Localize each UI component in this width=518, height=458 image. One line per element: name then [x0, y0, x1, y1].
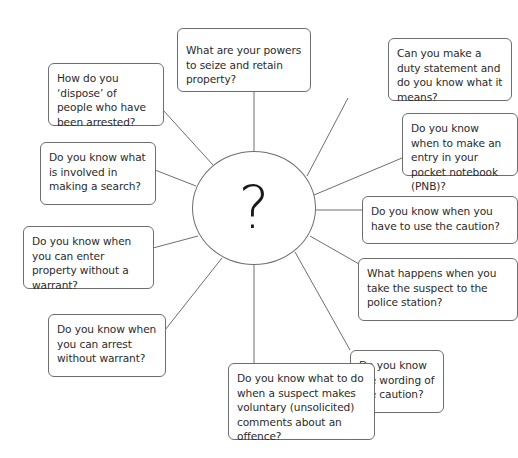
node-text: Do you know what is involved in making a…: [49, 151, 146, 192]
node-text: Do you know when you have to use the cau…: [371, 205, 500, 232]
node-dispose: How do you ‘dispose’ of people who have …: [48, 63, 164, 126]
node-text: Can you make a duty statement and do you…: [397, 47, 502, 103]
node-caution-use: Do you know when you have to use the cau…: [362, 196, 518, 244]
connector-arrest: [165, 258, 222, 330]
node-text: Do you know when you can arrest without …: [57, 323, 156, 364]
connector-pnb: [314, 158, 402, 195]
node-text: How do you ‘dispose’ of people who have …: [57, 72, 146, 128]
connector-search: [155, 170, 196, 186]
connector-duty: [307, 98, 348, 176]
node-enter-property: Do you know when you can enter property …: [23, 226, 154, 289]
connector-dispose: [163, 110, 213, 165]
center-hub: ?: [192, 151, 316, 265]
node-text: Do you know what to do when a suspect ma…: [237, 372, 364, 442]
node-seize: What are your powers to seize and retain…: [177, 28, 311, 92]
connector-caution-wording: [295, 252, 350, 350]
node-voluntary-comments: Do you know what to do when a suspect ma…: [228, 363, 375, 440]
node-police-station: What happens when you take the suspect t…: [358, 258, 518, 321]
node-pnb: Do you know when to make an entry in you…: [402, 113, 518, 176]
node-text: Do you know when you can enter property …: [32, 235, 131, 291]
node-arrest: Do you know when you can arrest without …: [48, 314, 166, 377]
question-mark: ?: [239, 174, 270, 242]
node-text: What are your powers to seize and retain…: [186, 44, 301, 85]
node-text: What happens when you take the suspect t…: [367, 267, 496, 308]
node-duty: Can you make a duty statement and do you…: [388, 38, 512, 101]
connector-enter-property: [153, 236, 198, 248]
node-search: Do you know what is involved in making a…: [40, 142, 156, 205]
